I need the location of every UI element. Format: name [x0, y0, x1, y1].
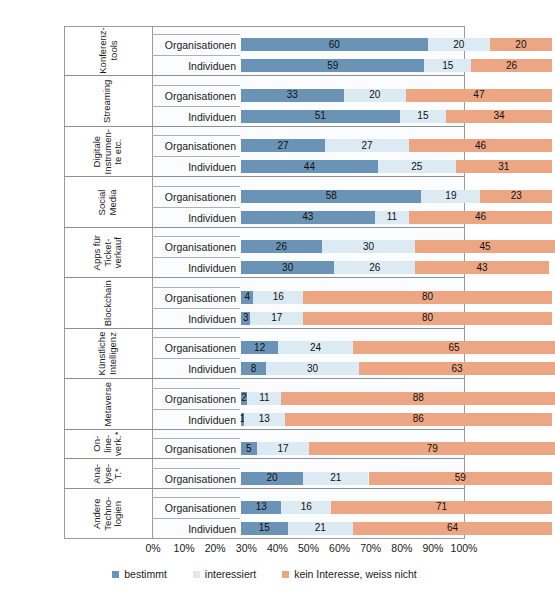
row-bar-track: 131671 — [241, 497, 552, 518]
bar-segment: 30 — [322, 240, 415, 253]
chart-row: Organisationen332047 — [152, 85, 465, 106]
category-group: StreamingOrganisationen332047Individuen5… — [64, 76, 465, 126]
row-label: Organisationen — [152, 337, 240, 358]
row-label: Organisationen — [152, 85, 240, 106]
bar-value-label: 71 — [436, 502, 447, 512]
category-label: AndereTechno-logien — [64, 489, 152, 539]
bar-value-label: 59 — [455, 473, 466, 483]
bar-value-label: 80 — [422, 292, 433, 302]
bar-value-label: 58 — [326, 191, 337, 201]
category-label-line: verkauf — [113, 235, 124, 270]
row-label: Organisationen — [152, 34, 240, 55]
category-label: Konferenz-tools — [64, 26, 152, 75]
bar-value-label: 17 — [277, 444, 288, 454]
bar-segment: 17 — [257, 442, 310, 455]
row-bar-track: 302643 — [241, 257, 552, 278]
category-group: SocialMediaOrganisationen581923Individue… — [64, 177, 465, 227]
bar-value-label: 34 — [494, 111, 505, 121]
bar-value-label: 26 — [369, 263, 380, 273]
row-bar-track: 332047 — [241, 85, 552, 106]
category-group: KünstlicheIntelligenzOrganisationen12246… — [64, 329, 465, 379]
chart-row: Individuen511534 — [152, 106, 465, 127]
bar-value-label: 16 — [301, 502, 312, 512]
legend-swatch-icon — [112, 571, 119, 578]
bar-value-label: 8 — [251, 364, 257, 374]
axis-tick-label: 30% — [236, 542, 257, 554]
category-group: BlockchainOrganisationen41680Individuen3… — [64, 278, 465, 328]
bar-segment: 15 — [424, 59, 471, 72]
bar-value-label: 20 — [369, 90, 380, 100]
axis-tick-label: 60% — [329, 542, 350, 554]
chart-row: Organisationen21188 — [152, 388, 465, 409]
row-label: Individuen — [152, 156, 240, 177]
row-label: Individuen — [152, 207, 240, 228]
bar-segment: 58 — [241, 190, 421, 203]
bar-value-label: 46 — [475, 141, 486, 151]
bar-segment: 26 — [241, 240, 322, 253]
bar-segment: 21 — [288, 522, 353, 535]
row-bar-track: 431146 — [241, 207, 552, 228]
chart-row: Organisationen202159 — [152, 468, 465, 489]
bar-value-label: 30 — [307, 364, 318, 374]
bar-segment: 19 — [421, 190, 480, 203]
bar-value-label: 20 — [267, 473, 278, 483]
legend-label: interessiert — [205, 568, 256, 580]
bar-segment: 44 — [241, 160, 378, 173]
category-group: Ana-lyse-T.*Organisationen202159 — [64, 459, 465, 488]
bar-value-label: 79 — [427, 444, 438, 454]
category-label-line: On- — [92, 432, 103, 456]
bar-segment: 3 — [241, 312, 250, 325]
bar-segment: 24 — [278, 341, 353, 354]
category-label-line: Intelligenz — [108, 332, 119, 376]
legend-item[interactable]: bestimmt — [112, 568, 167, 580]
bar-segment: 11 — [375, 211, 409, 224]
category-label: SocialMedia — [64, 177, 152, 226]
legend-swatch-icon — [193, 571, 200, 578]
bar-value-label: 19 — [445, 191, 456, 201]
chart-row: Organisationen581923 — [152, 186, 465, 207]
bar-segment: 23 — [480, 190, 552, 203]
chart-row: Individuen83063 — [152, 358, 465, 379]
bar-value-label: 15 — [417, 111, 428, 121]
axis-tick-label: 80% — [391, 542, 412, 554]
row-bar-track: 581923 — [241, 186, 552, 207]
bar-segment: 26 — [471, 59, 552, 72]
category-label: KünstlicheIntelligenz — [64, 329, 152, 378]
category-label: Metaverse — [64, 379, 152, 428]
category-label-line: T.* — [113, 463, 124, 483]
top-partial-text — [0, 0, 504, 12]
chart-row: Organisationen51779 — [152, 438, 465, 459]
chart-row: Individuen302643 — [152, 257, 465, 278]
category-label-line: Blockchain — [103, 280, 114, 326]
bar-segment: 59 — [369, 472, 552, 485]
bar-segment: 59 — [241, 59, 424, 72]
legend-item[interactable]: interessiert — [193, 568, 256, 580]
axis-tick-label: 50% — [298, 542, 319, 554]
bar-value-label: 27 — [277, 141, 288, 151]
category-group: Konferenz-toolsOrganisationen602020Indiv… — [64, 26, 465, 76]
bar-segment: 12 — [241, 341, 278, 354]
bar-value-label: 12 — [254, 343, 265, 353]
category-group: AndereTechno-logienOrganisationen131671I… — [64, 489, 465, 539]
category-label-line: verk.* — [113, 432, 124, 456]
bar-value-label: 27 — [361, 141, 372, 151]
bar-value-label: 63 — [452, 364, 463, 374]
bar-value-label: 15 — [442, 61, 453, 71]
bar-segment: 43 — [415, 261, 549, 274]
bar-segment: 13 — [241, 501, 281, 514]
row-bar-track: 202159 — [241, 468, 552, 489]
bar-segment: 80 — [303, 291, 552, 304]
category-label: Blockchain — [64, 278, 152, 327]
category-label-line: Social — [98, 189, 109, 215]
bar-segment: 51 — [241, 110, 400, 123]
bar-segment: 25 — [378, 160, 456, 173]
row-bar-track: 442531 — [241, 156, 552, 177]
row-bar-track: 602020 — [241, 34, 552, 55]
bar-segment: 88 — [281, 392, 555, 405]
bar-segment: 30 — [241, 261, 334, 274]
axis-tick-label: 20% — [205, 542, 226, 554]
legend-label: bestimmt — [124, 568, 167, 580]
chart-row: Individuen31780 — [152, 308, 465, 329]
bar-segment: 31 — [456, 160, 552, 173]
legend-item[interactable]: kein Interesse, weiss nicht — [282, 568, 417, 580]
